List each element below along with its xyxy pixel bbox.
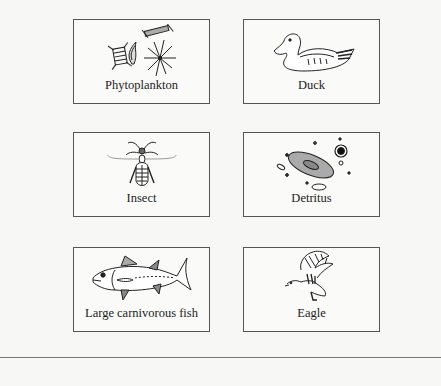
card-duck: Duck <box>243 19 380 104</box>
insect-icon <box>74 137 209 193</box>
card-insect: Insect <box>73 132 210 217</box>
label-phytoplankton: Phytoplankton <box>74 78 209 93</box>
fish-icon <box>74 250 209 306</box>
card-detritus: Detritus <box>243 132 380 217</box>
label-eagle: Eagle <box>244 306 379 321</box>
phytoplankton-icon <box>74 24 209 80</box>
label-insect: Insect <box>74 191 209 206</box>
card-phytoplankton: Phytoplankton <box>73 19 210 104</box>
label-detritus: Detritus <box>244 191 379 206</box>
detritus-icon <box>244 137 379 193</box>
eagle-icon <box>244 250 379 306</box>
horizontal-divider <box>0 357 441 358</box>
label-fish: Large carnivorous fish <box>74 306 209 321</box>
card-eagle: Eagle <box>243 247 380 332</box>
label-duck: Duck <box>244 78 379 93</box>
duck-icon <box>244 24 379 80</box>
card-fish: Large carnivorous fish <box>73 247 210 332</box>
